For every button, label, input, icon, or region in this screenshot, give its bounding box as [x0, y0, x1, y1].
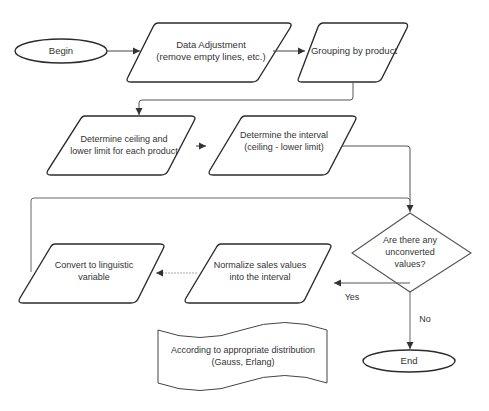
edge-label-no: No	[415, 312, 435, 326]
normalize-label: Normalize sales values into the interval	[200, 256, 320, 286]
note-label: According to appropriate distribution (G…	[160, 340, 326, 372]
ceiling-lower-label: Determine ceiling and lower limit for ea…	[62, 126, 186, 164]
grouping-label: Grouping by product	[303, 38, 405, 64]
begin-label: Begin	[15, 39, 107, 63]
data-adjustment-label: Data Adjustment (remove empty lines, etc…	[140, 30, 282, 72]
decision-label: Are there any unconverted values?	[372, 230, 448, 274]
convert-label: Convert to linguistic variable	[38, 256, 150, 286]
interval-label: Determine the interval (ceiling - lower …	[218, 126, 350, 156]
end-label: End	[363, 350, 455, 372]
edge-interval-to-decision	[342, 146, 410, 212]
edge-label-yes: Yes	[340, 290, 364, 304]
edge-grouping-to-ceiling	[139, 82, 353, 115]
